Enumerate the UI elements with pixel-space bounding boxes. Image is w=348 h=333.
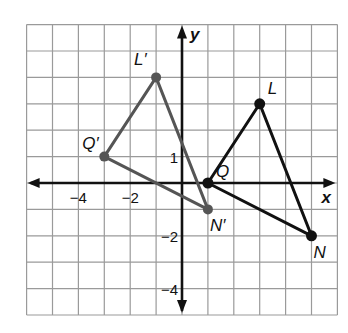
tick-labels: −4−21−2−4 <box>70 149 178 298</box>
x-axis-label: x <box>320 188 332 207</box>
vertex-label: N <box>314 243 327 262</box>
vertex-point <box>99 152 109 162</box>
x-axis-left-arrow-icon <box>28 178 40 188</box>
vertex-point <box>254 98 265 109</box>
y-axis-label: y <box>189 25 201 44</box>
vertex-label: Q <box>216 162 229 181</box>
vertex-label: L′ <box>134 50 147 69</box>
vertex-label: L <box>268 79 277 98</box>
coordinate-plane: xy −4−21−2−4 QLNQ′L′N′ <box>0 0 348 333</box>
y-axis-up-arrow-icon <box>177 26 187 39</box>
vertex-point <box>203 204 213 214</box>
vertex-point <box>151 72 161 82</box>
y-axis-down-arrow-icon <box>177 300 187 313</box>
y-tick-label: 1 <box>170 149 178 166</box>
x-tick-label: −2 <box>122 189 139 206</box>
y-tick-label: −4 <box>161 281 178 298</box>
x-axis-right-arrow-icon <box>323 178 335 188</box>
vertex-point <box>202 178 213 189</box>
axes: xy <box>28 25 336 313</box>
y-tick-label: −2 <box>161 228 178 245</box>
x-tick-label: −4 <box>70 189 87 206</box>
vertex-label: Q′ <box>82 134 99 153</box>
vertex-label: N′ <box>210 216 226 235</box>
vertex-point <box>306 230 317 241</box>
